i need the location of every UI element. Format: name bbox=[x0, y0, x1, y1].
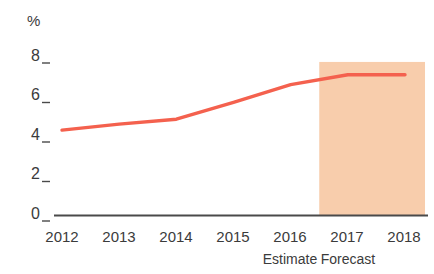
y-axis-tick-marks bbox=[42, 63, 50, 221]
y-axis-unit-label: % bbox=[27, 12, 40, 29]
x-tick-label-2015: 2015 bbox=[205, 228, 261, 245]
y-tick-label-6: 6 bbox=[22, 86, 40, 104]
chart-container: % 8 6 4 2 0 2012 2013 2014 2015 2016 201… bbox=[0, 0, 434, 274]
y-tick-label-8: 8 bbox=[22, 47, 40, 65]
x-tick-label-2012: 2012 bbox=[34, 228, 90, 245]
forecast-shaded-band bbox=[319, 62, 425, 215]
y-tick-label-4: 4 bbox=[22, 126, 40, 144]
x-tick-label-2018: 2018 bbox=[376, 228, 432, 245]
annotation-forecast: Forecast bbox=[308, 251, 388, 267]
x-tick-label-2013: 2013 bbox=[91, 228, 147, 245]
y-tick-label-2: 2 bbox=[22, 165, 40, 183]
y-tick-label-0: 0 bbox=[22, 205, 40, 223]
x-tick-label-2014: 2014 bbox=[148, 228, 204, 245]
x-tick-label-2016: 2016 bbox=[262, 228, 318, 245]
x-tick-label-2017: 2017 bbox=[319, 228, 375, 245]
